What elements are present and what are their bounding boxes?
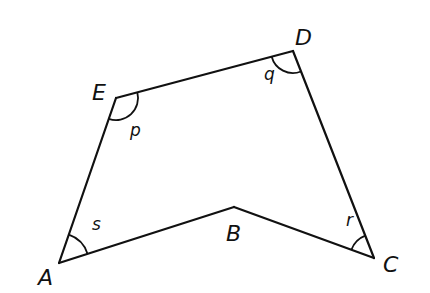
edge-ea: [59, 98, 116, 263]
edge-cd: [293, 51, 374, 258]
angle-arcs: [69, 57, 366, 254]
vertex-label-d: D: [295, 25, 312, 50]
polygon-edges: [59, 51, 374, 263]
angle-labels: p q r s: [92, 64, 354, 234]
polygon-diagram: A B C D E p q r s: [0, 0, 430, 293]
vertex-labels: A B C D E: [36, 25, 399, 290]
edge-ab: [59, 207, 234, 263]
edge-bc: [234, 207, 374, 258]
angle-arc-s: [69, 235, 88, 254]
angle-label-s: s: [92, 214, 101, 234]
vertex-label-a: A: [36, 265, 53, 290]
angle-label-q: q: [264, 64, 275, 84]
angle-arc-r: [351, 236, 365, 250]
angle-label-p: p: [129, 120, 141, 140]
angle-label-r: r: [346, 210, 354, 230]
vertex-label-c: C: [383, 252, 399, 277]
vertex-label-b: B: [226, 221, 241, 246]
vertex-label-e: E: [92, 80, 106, 105]
